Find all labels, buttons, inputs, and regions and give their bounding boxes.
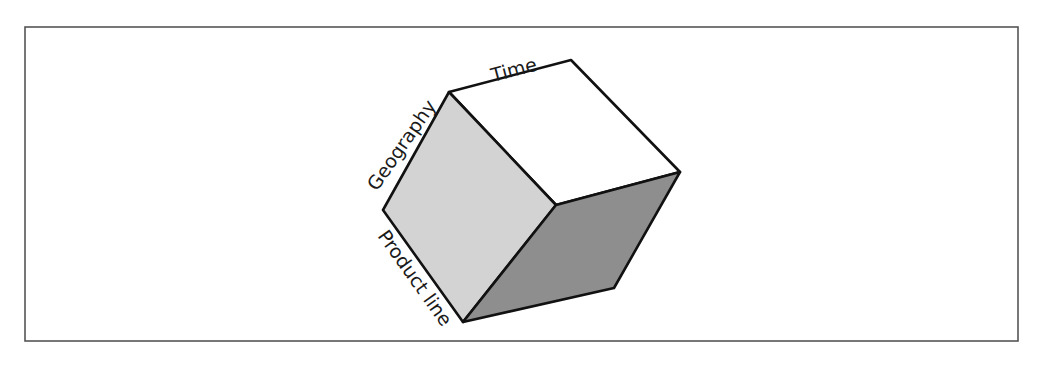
cube-diagram: Time Geography Product line <box>0 0 1046 365</box>
